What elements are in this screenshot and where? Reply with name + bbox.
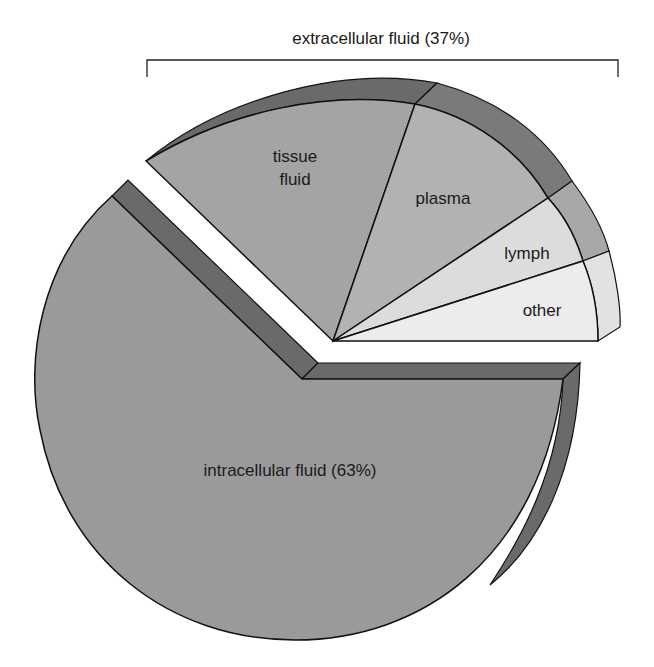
extracellular-label: extracellular fluid (37%) — [292, 29, 470, 48]
other-label: other — [523, 301, 562, 320]
lymph-label: lymph — [504, 244, 549, 263]
tissue-fluid-label-1: tissue — [273, 147, 317, 166]
tissue-fluid-label-2: fluid — [279, 170, 310, 189]
intracellular-label: intracellular fluid (63%) — [204, 461, 377, 480]
plasma-label: plasma — [416, 189, 471, 208]
fluid-pie-diagram: extracellular fluid (37%) intracellular … — [0, 0, 654, 667]
extracellular-bracket — [147, 60, 618, 77]
